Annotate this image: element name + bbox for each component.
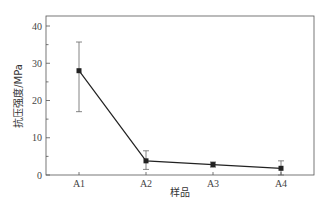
- plot-frame: [46, 16, 314, 175]
- x-axis-label: 样品: [170, 186, 190, 198]
- data-point-marker: [77, 68, 82, 73]
- data-point-marker: [279, 166, 284, 171]
- x-tick-label: A4: [275, 178, 287, 189]
- x-tick-label: A1: [73, 178, 85, 189]
- y-tick-label: 40: [32, 21, 42, 32]
- data-point-marker: [211, 162, 216, 167]
- data-series: [76, 42, 284, 175]
- x-tick-label: A2: [140, 178, 152, 189]
- x-tick-label: A3: [207, 178, 219, 189]
- chart: 010203040 A1A2A3A4 样品 抗压强度/MPa: [0, 0, 328, 209]
- y-axis: 010203040: [32, 21, 50, 181]
- y-axis-label: 抗压强度/MPa: [12, 64, 24, 128]
- series-line: [79, 71, 281, 169]
- y-tick-label: 30: [32, 58, 42, 69]
- y-tick-label: 10: [32, 132, 42, 143]
- y-tick-label: 0: [37, 170, 42, 181]
- y-tick-label: 20: [32, 95, 42, 106]
- data-point-marker: [144, 158, 149, 163]
